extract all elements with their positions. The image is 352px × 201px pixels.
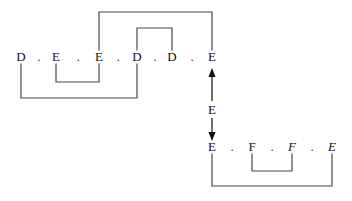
segment-lower-tier-0: E [204,140,220,153]
lower-outer-bottom-link [212,154,332,186]
separator-dot-lower-tier-1: . [267,140,277,153]
separator-dot-upper-tier-0: . [34,50,44,63]
segment-upper-tier-3: D [129,50,145,63]
upper-outer-bottom-link [21,64,137,98]
segment-lower-tier-2: F [284,140,300,153]
segment-lower-tier-3: E [324,140,340,153]
segment-upper-tier-2: E [91,50,107,63]
arrow-label: E [204,101,220,118]
association-diagram: DEEDDE..... EFFE... E [0,0,352,201]
upper-outer-top-link [99,12,212,50]
segment-upper-tier-4: D [164,50,180,63]
segment-upper-tier-1: E [48,50,64,63]
arrowhead-up-icon [208,68,215,77]
segment-lower-tier-1: F [244,140,260,153]
upper-inner-top-link [137,28,172,50]
diagram-lines-layer [0,0,352,201]
segment-upper-tier-5: E [204,50,220,63]
segment-upper-tier-0: D [13,50,29,63]
separator-dot-upper-tier-1: . [73,50,83,63]
separator-dot-upper-tier-4: . [187,50,197,63]
upper-inner-bottom-link [56,64,99,82]
separator-dot-upper-tier-2: . [113,50,123,63]
separator-dot-upper-tier-3: . [150,50,160,63]
separator-dot-lower-tier-2: . [307,140,317,153]
separator-dot-lower-tier-0: . [227,140,237,153]
lower-inner-bottom-link [252,154,292,171]
